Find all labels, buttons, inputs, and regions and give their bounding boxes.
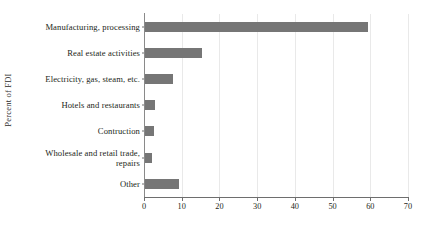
bar-row [144,118,408,144]
category-label-row: Real estate activities [16,40,143,66]
bar-row [144,92,408,118]
gridline [408,14,409,197]
x-axis-tick-label: 40 [291,202,299,211]
bar-row [144,66,408,92]
category-label: Manufacturing, processing [45,22,143,32]
bar [144,126,154,136]
category-label-row: Electricity, gas, steam, etc. [16,66,143,92]
category-label: Contruction [98,126,143,136]
x-axis-tick-label: 50 [328,202,336,211]
x-axis-tick-label: 0 [142,202,146,211]
category-axis: Manufacturing, processingReal estate act… [16,14,143,197]
y-axis-title-label: Percent of FDI [3,73,13,126]
category-label-row: Wholesale and retail trade,repairs [16,145,143,171]
x-axis-tick-label: 70 [404,202,412,211]
x-axis-tick [182,198,183,201]
category-label-row: Contruction [16,118,143,144]
x-axis-tick [257,198,258,201]
x-axis-tick-label: 60 [366,202,374,211]
y-axis-title: Percent of FDI [0,0,16,200]
category-label-row: Manufacturing, processing [16,14,143,40]
x-axis-tick [219,198,220,201]
bar [144,22,368,32]
category-label: Real estate activities [67,48,143,58]
category-label-row: Other [16,171,143,197]
bar-row [144,40,408,66]
category-label-row: Hotels and restaurants [16,92,143,118]
plot-area [144,14,408,197]
bar-row [144,145,408,171]
bar [144,74,173,84]
bar-chart: Percent of FDI Manufacturing, processing… [0,0,428,227]
bar [144,153,152,163]
category-label: Wholesale and retail trade,repairs [45,148,143,168]
x-axis-tick [295,198,296,201]
category-label: Hotels and restaurants [61,100,143,110]
x-axis-tick [333,198,334,201]
x-axis: 010203040506070 [144,198,408,218]
bar-row [144,171,408,197]
category-label: Other [120,179,143,189]
x-axis-tick [370,198,371,201]
bar [144,179,179,189]
bar-row [144,14,408,40]
y-axis-line [144,13,145,197]
bar [144,100,155,110]
x-axis-tick [144,198,145,201]
x-axis-tick-label: 20 [215,202,223,211]
x-axis-tick-label: 10 [178,202,186,211]
category-label: Electricity, gas, steam, etc. [45,74,143,84]
x-axis-tick-label: 30 [253,202,261,211]
x-axis-tick [408,198,409,201]
bar [144,48,202,58]
